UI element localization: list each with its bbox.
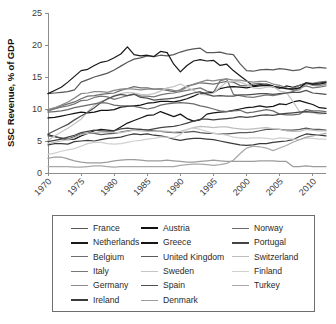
y-tick-label: 10 [32, 104, 42, 114]
series-lines [48, 47, 326, 167]
legend-item-sweden[interactable]: Sweden [141, 264, 230, 278]
legend-label: Italy [93, 267, 109, 276]
y-tick-label: 20 [32, 40, 42, 50]
legend-item-denmark[interactable]: Denmark [141, 293, 230, 307]
x-tick-label: 2005 [264, 176, 285, 197]
x-tick-label: 1975 [65, 176, 86, 197]
series-line-belgium [48, 81, 326, 110]
legend-item-germany[interactable]: Germany [71, 279, 139, 293]
x-tick-label: 1985 [131, 176, 152, 197]
legend-swatch-icon [71, 256, 88, 257]
chart-figure: SSC Revenue, % of GDP 0510152025 1970197… [0, 0, 336, 324]
y-tick-label: 5 [37, 136, 42, 146]
series-line-austria [48, 83, 326, 118]
legend-item-portugal[interactable]: Portugal [232, 235, 314, 249]
chart-legend: FranceNetherlandsBelgiumItalyGermanyIrel… [52, 215, 315, 312]
legend-item-ireland[interactable]: Ireland [71, 293, 139, 307]
legend-swatch-icon [71, 299, 88, 301]
legend-swatch-icon [232, 228, 249, 229]
legend-swatch-icon [141, 285, 158, 286]
legend-label: Sweden [163, 267, 194, 276]
legend-swatch-icon [141, 256, 158, 257]
y-tick-label: 25 [32, 8, 42, 18]
legend-item-italy[interactable]: Italy [71, 264, 139, 278]
line-chart-plot: SSC Revenue, % of GDP 0510152025 1970197… [0, 0, 336, 215]
legend-item-turkey[interactable]: Turkey [232, 279, 314, 293]
x-axis-ticks: 197019751980198519901995200020052010 [32, 173, 318, 198]
legend-item-greece[interactable]: Greece [141, 235, 230, 249]
legend-label: Denmark [163, 296, 198, 305]
legend-item-united-kingdom[interactable]: United Kingdom [141, 250, 230, 264]
legend-swatch-icon [141, 227, 158, 229]
legend-label: Switzerland [254, 253, 298, 262]
legend-column-1: AustriaGreeceUnited KingdomSwedenSpainDe… [139, 221, 230, 311]
legend-label: Austria [163, 224, 190, 233]
legend-label: Norway [254, 224, 283, 233]
x-tick-label: 1970 [32, 176, 53, 197]
x-tick-label: 1980 [98, 176, 119, 197]
legend-swatch-icon [232, 242, 249, 244]
legend-item-france[interactable]: France [71, 221, 139, 235]
legend-label: Spain [163, 281, 185, 290]
legend-column-0: FranceNetherlandsBelgiumItalyGermanyIrel… [53, 221, 139, 311]
legend-label: United Kingdom [163, 253, 224, 262]
legend-item-finland[interactable]: Finland [232, 264, 314, 278]
legend-label: Germany [93, 281, 128, 290]
legend-column-2: NorwayPortugalSwitzerlandFinlandTurkey [230, 221, 314, 311]
series-line-portugal [48, 112, 326, 142]
legend-swatch-icon [141, 300, 158, 301]
legend-item-belgium[interactable]: Belgium [71, 250, 139, 264]
legend-item-norway[interactable]: Norway [232, 221, 314, 235]
legend-item-spain[interactable]: Spain [141, 279, 230, 293]
legend-label: France [93, 224, 120, 233]
x-tick-label: 2000 [231, 176, 252, 197]
legend-swatch-icon [232, 256, 249, 257]
x-tick-label: 2010 [297, 176, 318, 197]
legend-label: Turkey [254, 281, 280, 290]
legend-label: Belgium [93, 253, 124, 262]
legend-swatch-icon [71, 285, 88, 286]
y-axis-ticks: 0510152025 [32, 8, 48, 178]
legend-swatch-icon [141, 271, 158, 272]
legend-label: Greece [163, 238, 191, 247]
legend-swatch-icon [71, 228, 88, 229]
y-tick-label: 15 [32, 72, 42, 82]
legend-swatch-icon [71, 271, 88, 272]
legend-item-netherlands[interactable]: Netherlands [71, 235, 139, 249]
x-tick-label: 1995 [198, 176, 219, 197]
legend-columns: FranceNetherlandsBelgiumItalyGermanyIrel… [53, 216, 314, 311]
legend-swatch-icon [232, 285, 249, 286]
legend-label: Netherlands [93, 238, 139, 247]
y-axis-title: SSC Revenue, % of GDP [5, 38, 16, 147]
legend-label: Portugal [254, 238, 286, 247]
y-tick-label: 0 [37, 168, 42, 178]
legend-swatch-icon [232, 271, 249, 272]
legend-item-austria[interactable]: Austria [141, 221, 230, 235]
legend-swatch-icon [71, 242, 88, 244]
legend-swatch-icon [141, 242, 158, 244]
legend-label: Finland [254, 267, 282, 276]
legend-item-switzerland[interactable]: Switzerland [232, 250, 314, 264]
legend-label: Ireland [93, 296, 119, 305]
x-tick-label: 1990 [165, 176, 186, 197]
